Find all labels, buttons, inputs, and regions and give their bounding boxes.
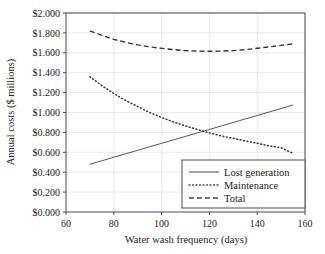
y-axis-title: Annual costs ($ millions) bbox=[5, 58, 17, 165]
x-axis-tick-label: 120 bbox=[202, 218, 217, 229]
y-axis-tick-label: $0.400 bbox=[33, 167, 61, 178]
x-axis-tick-label: 80 bbox=[109, 218, 119, 229]
y-axis-tick-label: $1.000 bbox=[33, 107, 61, 118]
y-axis-tick-label: $1.200 bbox=[33, 87, 61, 98]
legend-label: Maintenance bbox=[224, 180, 279, 191]
x-axis-title: Water wash frequency (days) bbox=[125, 234, 248, 246]
y-axis-tick-label: $2.000 bbox=[33, 8, 61, 19]
y-axis-tick-label: $0.800 bbox=[33, 127, 61, 138]
x-axis-tick-label: 60 bbox=[61, 218, 71, 229]
y-axis-tick-label: $1.800 bbox=[33, 28, 61, 39]
y-axis-tick-label: $1.600 bbox=[33, 47, 61, 58]
x-axis-tick-label: 160 bbox=[298, 218, 313, 229]
y-axis-tick-label: $0.200 bbox=[33, 187, 61, 198]
x-axis-tick-label: 140 bbox=[250, 218, 265, 229]
y-axis-tick-label: $1.400 bbox=[33, 67, 61, 78]
y-axis-tick-label: $0.000 bbox=[33, 207, 61, 218]
y-axis-tick-label: $0.600 bbox=[33, 147, 61, 158]
legend-label: Total bbox=[224, 193, 246, 204]
x-axis-tick-label: 100 bbox=[154, 218, 169, 229]
cost-vs-wash-frequency-chart: $0.000$0.200$0.400$0.600$0.800$1.000$1.2… bbox=[0, 0, 325, 254]
legend-label: Lost generation bbox=[224, 167, 290, 178]
chart-legend: Lost generationMaintenanceTotal bbox=[182, 160, 305, 208]
chart-container: $0.000$0.200$0.400$0.600$0.800$1.000$1.2… bbox=[0, 0, 325, 254]
